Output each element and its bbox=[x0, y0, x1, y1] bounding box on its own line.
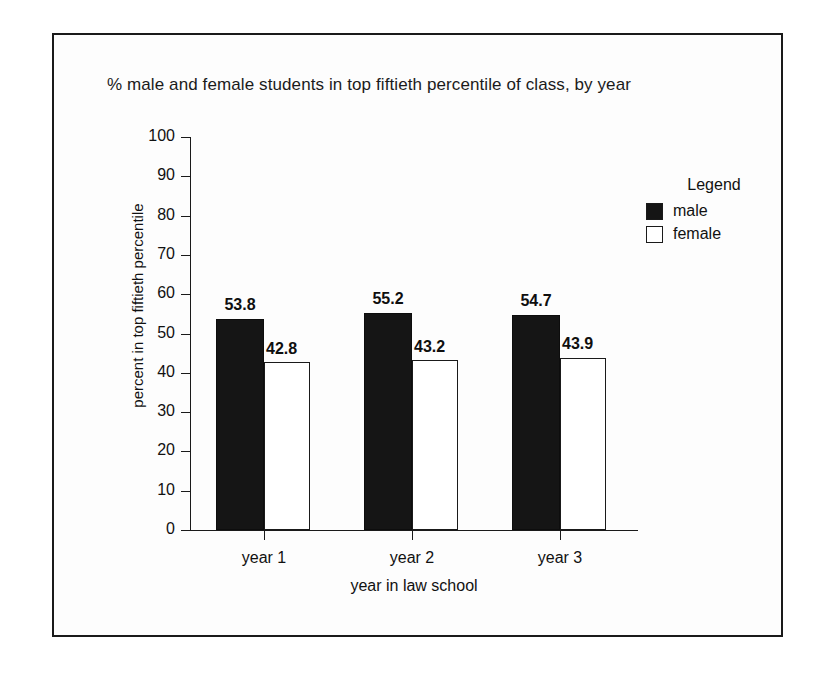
y-tick-10: 10 bbox=[181, 491, 190, 492]
y-tick-80: 80 bbox=[181, 216, 190, 217]
y-tick-20: 20 bbox=[181, 451, 190, 452]
y-tick-label-70: 70 bbox=[157, 245, 175, 263]
x-tick-year-3 bbox=[560, 530, 561, 540]
x-axis-title: year in law school bbox=[190, 577, 638, 595]
legend-swatch-male-icon bbox=[646, 203, 663, 220]
legend-label-female: female bbox=[673, 225, 721, 243]
y-tick-50: 50 bbox=[181, 334, 190, 335]
bar-female-year-2[interactable] bbox=[412, 360, 458, 530]
legend-title: Legend bbox=[662, 176, 766, 194]
y-tick-label-0: 0 bbox=[166, 520, 175, 538]
y-tick-label-60: 60 bbox=[157, 284, 175, 302]
bar-male-year-2[interactable] bbox=[364, 313, 412, 530]
bar-value-female-year-2: 43.2 bbox=[414, 338, 445, 356]
bar-female-year-3[interactable] bbox=[560, 358, 606, 531]
y-tick-30: 30 bbox=[181, 412, 190, 413]
chart-title: % male and female students in top fiftie… bbox=[107, 75, 707, 95]
y-tick-label-30: 30 bbox=[157, 402, 175, 420]
y-tick-label-80: 80 bbox=[157, 206, 175, 224]
y-tick-0: 0 bbox=[181, 530, 190, 531]
bar-value-female-year-1: 42.8 bbox=[266, 340, 297, 358]
x-category-label-year-2: year 2 bbox=[362, 549, 462, 567]
y-axis-line bbox=[190, 137, 191, 531]
y-axis-title: percent in top fiftieth percentile bbox=[129, 156, 146, 456]
y-tick-90: 90 bbox=[181, 176, 190, 177]
plot-area: 100 90 80 70 60 50 40 30 20 10 0 bbox=[190, 137, 638, 530]
y-tick-40: 40 bbox=[181, 373, 190, 374]
legend-swatch-female-icon bbox=[646, 226, 663, 243]
y-tick-label-50: 50 bbox=[157, 324, 175, 342]
y-tick-100: 100 bbox=[181, 137, 190, 138]
bar-male-year-1[interactable] bbox=[216, 319, 264, 530]
x-axis-line bbox=[190, 530, 638, 531]
x-tick-year-2 bbox=[412, 530, 413, 540]
legend-label-male: male bbox=[673, 202, 708, 220]
x-tick-year-1 bbox=[264, 530, 265, 540]
bar-female-year-1[interactable] bbox=[264, 362, 310, 530]
y-tick-60: 60 bbox=[181, 294, 190, 295]
legend-item-male[interactable]: male bbox=[646, 202, 766, 220]
bar-male-year-3[interactable] bbox=[512, 315, 560, 530]
bar-value-male-year-1: 53.8 bbox=[216, 296, 264, 314]
legend: Legend male female bbox=[646, 176, 766, 248]
y-tick-label-100: 100 bbox=[148, 127, 175, 145]
bar-value-female-year-3: 43.9 bbox=[562, 335, 593, 353]
figure-frame: % male and female students in top fiftie… bbox=[52, 33, 783, 637]
bar-value-male-year-2: 55.2 bbox=[364, 290, 412, 308]
y-tick-label-20: 20 bbox=[157, 441, 175, 459]
y-tick-label-40: 40 bbox=[157, 363, 175, 381]
y-tick-label-90: 90 bbox=[157, 166, 175, 184]
x-category-label-year-3: year 3 bbox=[510, 549, 610, 567]
y-tick-label-10: 10 bbox=[157, 481, 175, 499]
legend-item-female[interactable]: female bbox=[646, 225, 766, 243]
y-tick-70: 70 bbox=[181, 255, 190, 256]
bar-value-male-year-3: 54.7 bbox=[512, 292, 560, 310]
x-category-label-year-1: year 1 bbox=[214, 549, 314, 567]
